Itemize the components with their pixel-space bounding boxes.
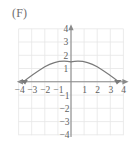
y-tick-label: −4 bbox=[59, 130, 69, 140]
y-tick-label: −1 bbox=[59, 91, 69, 101]
x-tick-label: −3 bbox=[27, 85, 37, 95]
x-tick-label: −2 bbox=[40, 85, 50, 95]
y-tick-label: −3 bbox=[59, 117, 69, 127]
x-tick-label: 1 bbox=[82, 85, 87, 95]
y-tick-label: 2 bbox=[64, 51, 69, 61]
x-tick-label: 2 bbox=[95, 85, 100, 95]
x-tick-label: 3 bbox=[108, 85, 113, 95]
x-tick-labels: −4 −3 −2 −1 1 2 3 4 bbox=[15, 85, 127, 95]
coordinate-plot: −4 −3 −2 −1 1 2 3 4 4 3 2 1 −1 −2 −3 −4 bbox=[0, 0, 139, 151]
x-tick-label: 4 bbox=[121, 85, 126, 95]
y-tick-label: 4 bbox=[64, 24, 69, 34]
y-tick-label: −2 bbox=[59, 104, 69, 114]
axis-group bbox=[17, 24, 129, 137]
x-tick-label: −4 bbox=[15, 85, 25, 95]
y-tick-label: 1 bbox=[64, 64, 69, 74]
up-arrowhead-icon bbox=[68, 24, 73, 30]
graph-figure: (F) bbox=[0, 0, 139, 151]
y-tick-label: 3 bbox=[64, 37, 69, 47]
